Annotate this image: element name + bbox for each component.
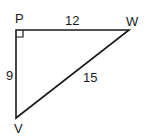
vertex-label-p: P	[15, 11, 24, 26]
vertex-label-v: V	[14, 121, 23, 136]
side-label-vw: 15	[83, 70, 97, 85]
triangle-pwv	[16, 30, 129, 118]
vertex-label-w: W	[126, 14, 139, 29]
side-label-pv: 9	[6, 68, 13, 83]
triangle-diagram: P W V 12 9 15	[0, 0, 153, 140]
side-label-pw: 12	[65, 13, 79, 28]
right-angle-marker	[16, 30, 23, 37]
